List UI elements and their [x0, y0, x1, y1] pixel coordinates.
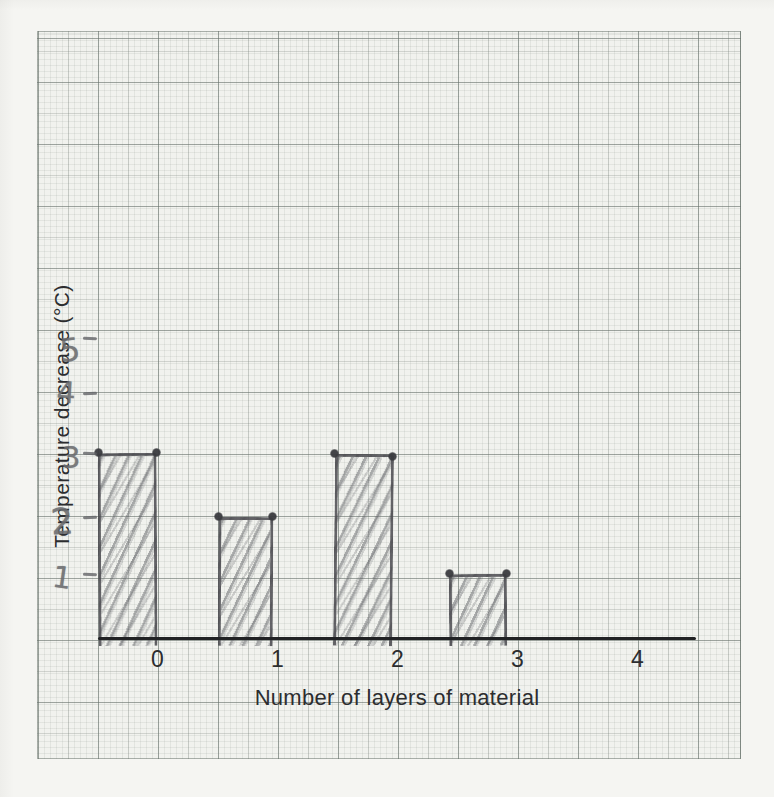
bar-top-right-dot-0 [152, 448, 161, 457]
x-tick-label-2: 2 [391, 648, 404, 671]
y-tick-handwritten-5: 5 [58, 333, 82, 367]
bar-layers-3 [448, 574, 507, 646]
y-tick-handwritten-3: 3 [61, 443, 80, 473]
x-tick-label-3: 3 [511, 648, 524, 671]
bar-top-left-dot-3 [445, 569, 454, 578]
scanned-chart-page: Temperature decrease (°C) 01234 12345 Nu… [0, 0, 774, 797]
bar-top-right-dot-1 [268, 512, 277, 521]
x-tick-label-0: 0 [151, 648, 164, 671]
bar-top-right-dot-3 [502, 569, 511, 578]
bar-top-right-dot-2 [388, 452, 397, 461]
y-tick-handwritten-2: 2 [49, 503, 74, 541]
x-tick-label-4: 4 [631, 648, 644, 671]
x-axis-title: Number of layers of material [255, 685, 540, 711]
bar-layers-1 [217, 517, 273, 646]
x-tick-label-1: 1 [271, 648, 284, 671]
bar-layers-2 [332, 454, 393, 647]
x-axis-line [98, 637, 696, 640]
bar-top-left-dot-2 [330, 449, 339, 458]
bar-top-left-dot-1 [214, 512, 223, 521]
bar-layers-0 [97, 453, 157, 646]
y-tick-handwritten-4: 4 [56, 378, 77, 409]
